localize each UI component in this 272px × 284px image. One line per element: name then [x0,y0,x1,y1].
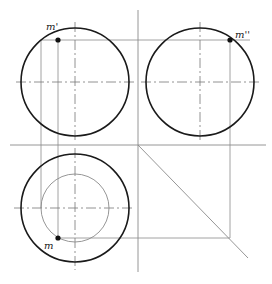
point-m-double-prime [227,37,232,42]
label-m: m [44,240,53,251]
label-m-double-prime: m'' [235,29,250,40]
miter-line [138,145,248,258]
point-m-prime [55,37,60,42]
label-m-prime: m' [46,21,58,32]
projection-axes [10,10,266,272]
points [55,37,232,240]
point-m [55,235,60,240]
projection-diagram: m' m'' m [0,0,272,284]
